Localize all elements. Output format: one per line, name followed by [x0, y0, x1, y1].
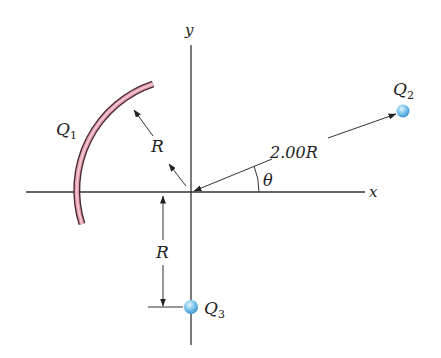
q2-label: Q2 — [393, 79, 414, 102]
y-axis-label: y — [184, 21, 194, 39]
q3-charge — [184, 300, 198, 314]
angle-theta-arc — [254, 166, 259, 192]
q3-label: Q3 — [204, 298, 225, 321]
q2-charge — [397, 105, 410, 118]
distance-arrow-to-origin — [194, 159, 272, 191]
radius-label: R — [150, 136, 164, 156]
q2-distance-label: 2.00R — [269, 143, 318, 162]
radius-arrow-to-arc — [169, 164, 186, 186]
x-axis-label: x — [369, 183, 378, 201]
q1-label: Q1 — [56, 119, 77, 142]
angle-theta-label: θ — [263, 171, 273, 190]
distance-arrow-to-q2 — [328, 114, 396, 138]
q3-distance-label: R — [155, 242, 169, 262]
charge-diagram: y x Q1 R 2.00R θ Q2 R Q3 — [0, 0, 441, 358]
